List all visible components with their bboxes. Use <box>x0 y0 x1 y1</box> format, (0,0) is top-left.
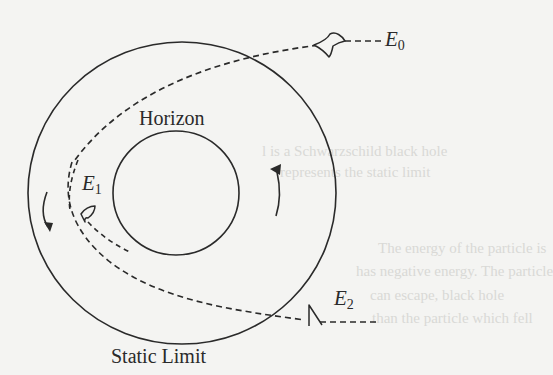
rotation-arrow-right <box>276 172 280 216</box>
horizon-label: Horizon <box>139 107 205 130</box>
e0-label-sub: 0 <box>398 38 405 53</box>
rotation-arrowhead-right <box>270 164 281 175</box>
static-limit-label: Static Limit <box>111 345 206 368</box>
e2-label-base: E <box>334 286 347 310</box>
rotation-arrow-left <box>43 192 48 227</box>
e0-spaceship-icon <box>314 33 345 57</box>
e1-label-sub: 1 <box>95 182 102 197</box>
rotation-arrowhead-left <box>44 222 53 232</box>
static-limit-circle <box>28 42 336 344</box>
e1-fragment-icon <box>81 206 95 222</box>
e0-label: E0 <box>385 27 405 54</box>
e1-label-base: E <box>82 171 95 195</box>
e1-label: E1 <box>82 171 102 198</box>
e2-label: E2 <box>334 286 354 313</box>
e0-label-base: E <box>385 27 398 51</box>
e2-trajectory <box>68 162 305 320</box>
horizon-circle <box>113 131 239 255</box>
e2-label-sub: 2 <box>347 297 354 312</box>
incoming-trajectory <box>75 44 328 160</box>
e2-fragment-icon <box>309 305 322 326</box>
